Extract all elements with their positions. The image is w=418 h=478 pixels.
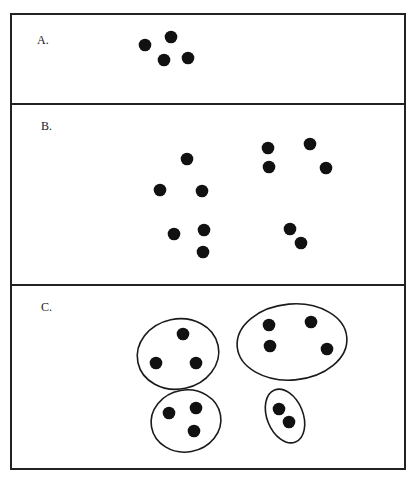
panel-a: A. xyxy=(37,31,194,67)
panel-a-label: A. xyxy=(37,33,49,47)
dot xyxy=(273,403,286,416)
dot xyxy=(181,153,194,166)
dot xyxy=(139,39,152,52)
panel-c-dots xyxy=(150,316,334,438)
frame-border xyxy=(11,14,405,469)
dot xyxy=(158,54,171,67)
dot xyxy=(150,357,163,370)
dot xyxy=(154,184,167,197)
dot xyxy=(197,246,210,259)
group-enclosure xyxy=(234,299,350,384)
dot xyxy=(304,138,317,151)
dot xyxy=(196,185,209,198)
panel-b: B. xyxy=(41,119,332,258)
panel-a-dots xyxy=(139,31,195,67)
dot xyxy=(321,343,334,356)
grouping-diagram: A. B. C. xyxy=(0,0,418,478)
dot xyxy=(264,340,277,353)
dot xyxy=(198,224,211,237)
panel-b-dots xyxy=(154,138,333,259)
panel-c: C. xyxy=(41,299,350,457)
dot xyxy=(283,416,296,429)
dot xyxy=(165,31,178,44)
dot xyxy=(190,357,203,370)
dot xyxy=(182,52,195,65)
group-enclosure xyxy=(146,384,226,457)
dot xyxy=(168,228,181,241)
panel-b-label: B. xyxy=(41,119,52,133)
dot xyxy=(262,142,275,155)
dot xyxy=(295,237,308,250)
group-enclosure xyxy=(258,383,312,448)
dot xyxy=(263,319,276,332)
dot xyxy=(163,407,176,420)
panel-c-label: C. xyxy=(41,300,52,314)
dot xyxy=(263,161,276,174)
dot xyxy=(188,425,201,438)
diagram-frame xyxy=(11,14,405,469)
group-enclosure xyxy=(131,311,226,397)
dot xyxy=(177,328,190,341)
dot xyxy=(305,316,318,329)
dot xyxy=(284,223,297,236)
dot xyxy=(190,402,203,415)
dot xyxy=(320,162,333,175)
